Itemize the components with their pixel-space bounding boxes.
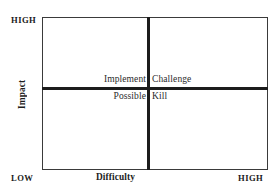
quadrant-label-kill: Kill [152,92,167,102]
x-axis-title: Difficulty [96,172,135,182]
quadrant-label-challenge: Challenge [152,75,191,85]
y-axis-high-label: HIGH [11,15,36,25]
quadrant-label-implement: Implement [104,75,146,85]
vertical-divider-line [147,17,150,170]
diagram-canvas: Implement Challenge Possible Kill HIGH I… [0,0,279,193]
x-axis-high-label: HIGH [238,173,263,183]
horizontal-divider-line [42,87,268,90]
y-axis-title: Impact [17,70,29,118]
quadrant-label-possible: Possible [114,92,146,102]
